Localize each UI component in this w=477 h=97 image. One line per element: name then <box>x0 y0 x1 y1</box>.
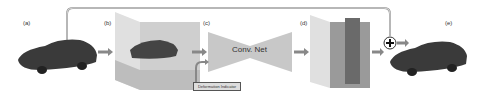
panel-label-d: (d) <box>300 20 307 26</box>
deformation-indicator-label: Deformation Indicator <box>193 82 241 91</box>
conv-net-label: Conv. Net <box>232 45 267 54</box>
car-input-image <box>18 40 97 74</box>
panel-label-c: (c) <box>203 20 210 26</box>
voxel-grid-b <box>115 12 200 90</box>
panel-label-a: (a) <box>23 20 30 26</box>
car-output-image <box>390 42 467 76</box>
deformation-grid-d <box>310 15 370 88</box>
panel-label-e: (e) <box>445 20 452 26</box>
panel-label-b: (b) <box>104 20 111 26</box>
